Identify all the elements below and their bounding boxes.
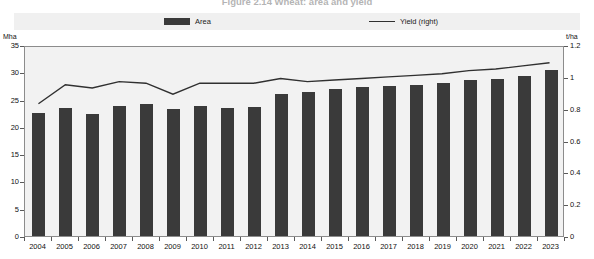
x-axis-tick-2014 (294, 237, 295, 241)
x-axis-label-2018: 2018 (402, 243, 430, 251)
left-axis-tick-20 (20, 128, 24, 129)
x-axis-label-2008: 2008 (132, 243, 160, 251)
right-axis-tick-1 (564, 78, 568, 79)
x-axis-tick-2005 (51, 237, 52, 241)
x-axis-label-2012: 2012 (240, 243, 268, 251)
bar-2014 (302, 92, 314, 236)
bar-2019 (437, 83, 449, 236)
left-axis-label-15: 15 (0, 151, 19, 159)
x-axis-label-2011: 2011 (213, 243, 241, 251)
right-axis-label-1: 1 (570, 74, 574, 82)
legend-item-yield: Yield (right) (369, 18, 438, 26)
bar-2021 (491, 79, 503, 236)
chart-title-strip: Figure 2.14 Wheat: area and yield (0, 0, 594, 10)
left-axis-label-30: 30 (0, 69, 19, 77)
x-axis-tick-2015 (321, 237, 322, 241)
bar-2004 (32, 113, 44, 236)
right-axis-label-0.2: 0.2 (570, 201, 580, 209)
legend-label-yield: Yield (right) (400, 18, 438, 26)
right-axis-unit: t/ha (566, 33, 578, 40)
right-axis-tick-0.4 (564, 173, 568, 174)
x-axis-tick-2018 (402, 237, 403, 241)
x-axis-tick-2022 (510, 237, 511, 241)
x-axis-tick-2017 (375, 237, 376, 241)
x-axis-label-2013: 2013 (267, 243, 295, 251)
right-axis-tick-0.8 (564, 110, 568, 111)
x-axis-label-2006: 2006 (78, 243, 106, 251)
x-axis-label-2009: 2009 (159, 243, 187, 251)
x-axis-label-2007: 2007 (105, 243, 133, 251)
x-axis-label-2020: 2020 (456, 243, 484, 251)
bar-2011 (221, 108, 233, 236)
left-axis-label-35: 35 (0, 42, 19, 50)
bar-2022 (518, 76, 530, 236)
bar-2023 (545, 70, 557, 236)
x-axis-tick-end (564, 237, 565, 241)
bar-2017 (383, 86, 395, 236)
x-axis-tick-2006 (78, 237, 79, 241)
bar-2020 (464, 80, 476, 236)
x-axis-tick-2019 (429, 237, 430, 241)
x-axis-tick-2013 (267, 237, 268, 241)
x-axis-label-2004: 2004 (24, 243, 52, 251)
x-axis-label-2019: 2019 (429, 243, 457, 251)
legend-line-swatch-icon (369, 21, 395, 22)
right-axis-label-0.6: 0.6 (570, 138, 580, 146)
left-axis-label-20: 20 (0, 124, 19, 132)
x-axis-label-2014: 2014 (294, 243, 322, 251)
x-axis-label-2015: 2015 (321, 243, 349, 251)
legend-label-area: Area (195, 18, 211, 26)
x-axis-tick-2016 (348, 237, 349, 241)
x-axis-label-2022: 2022 (510, 243, 538, 251)
bar-2008 (140, 104, 152, 236)
x-axis-tick-2011 (213, 237, 214, 241)
left-axis-tick-15 (20, 155, 24, 156)
left-axis-label-5: 5 (0, 206, 19, 214)
right-axis-label-0.4: 0.4 (570, 169, 580, 177)
x-axis-label-2010: 2010 (186, 243, 214, 251)
bar-2010 (194, 106, 206, 236)
x-axis-tick-2007 (105, 237, 106, 241)
left-axis-tick-25 (20, 101, 24, 102)
x-axis-tick-2008 (132, 237, 133, 241)
bar-2007 (113, 106, 125, 236)
x-axis-tick-2021 (483, 237, 484, 241)
bar-2016 (356, 87, 368, 236)
right-axis-tick-0.2 (564, 205, 568, 206)
bar-2005 (59, 108, 71, 236)
legend-item-area: Area (164, 18, 211, 26)
bar-2006 (86, 114, 98, 236)
chart-title: Figure 2.14 Wheat: area and yield (0, 0, 594, 7)
right-axis-label-0.8: 0.8 (570, 106, 580, 114)
wheat-area-yield-chart: Figure 2.14 Wheat: area and yield Area Y… (0, 0, 594, 259)
left-axis-unit: Mha (3, 33, 17, 40)
yield-line-series (25, 47, 563, 236)
bar-2012 (248, 107, 260, 236)
left-axis-label-0: 0 (0, 233, 19, 241)
right-axis-label-1.2: 1.2 (570, 42, 580, 50)
left-axis-label-25: 25 (0, 97, 19, 105)
x-axis-tick-2020 (456, 237, 457, 241)
x-axis-label-2023: 2023 (537, 243, 565, 251)
plot-area (24, 46, 564, 237)
x-axis-tick-2010 (186, 237, 187, 241)
x-axis-tick-2012 (240, 237, 241, 241)
left-axis-tick-5 (20, 210, 24, 211)
right-axis-tick-1.2 (564, 46, 568, 47)
plot-inner (25, 47, 563, 236)
right-axis-tick-0.6 (564, 142, 568, 143)
left-axis-tick-10 (20, 182, 24, 183)
right-axis-label-0: 0 (570, 233, 574, 241)
bar-2015 (329, 89, 341, 236)
x-axis-label-2021: 2021 (483, 243, 511, 251)
x-axis-label-2017: 2017 (375, 243, 403, 251)
x-axis-tick-2009 (159, 237, 160, 241)
bar-2018 (410, 85, 422, 236)
bar-2009 (167, 109, 179, 236)
bar-2013 (275, 94, 287, 236)
x-axis-tick-2004 (24, 237, 25, 241)
left-axis-tick-30 (20, 73, 24, 74)
x-axis-label-2016: 2016 (348, 243, 376, 251)
x-axis-tick-2023 (537, 237, 538, 241)
chart-legend: Area Yield (right) (14, 13, 580, 30)
